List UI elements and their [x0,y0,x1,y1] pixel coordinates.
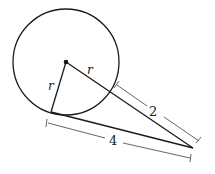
geometry-figure: r r 2 4 [0,0,215,174]
dimension-outside-segment [114,81,201,143]
dimension-tangent-length [46,119,191,162]
diagram-canvas: r r 2 4 [0,0,215,174]
tangent-segment [51,112,193,148]
center-to-external-point-line [66,62,193,148]
label-radius-secant: r [87,63,94,77]
label-outside-segment: 2 [149,104,157,119]
label-radius-tangent: r [48,79,55,93]
label-tangent-length: 4 [109,133,117,148]
